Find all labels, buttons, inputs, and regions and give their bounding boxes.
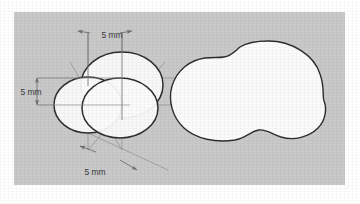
- figure-scan: ........ ......... ..... .....: [0, 0, 360, 204]
- cut-off-text-remnant: ........ ......... ..... .....: [120, 0, 360, 7]
- bottom-circle: [82, 78, 158, 138]
- diagram-svg: 5 mm 5 mm 5 mm: [0, 0, 360, 204]
- dim-left-label: 5 mm: [20, 87, 41, 97]
- dim-top-label: 5 mm: [101, 30, 122, 40]
- dim-bottom-label: 5 mm: [84, 167, 105, 177]
